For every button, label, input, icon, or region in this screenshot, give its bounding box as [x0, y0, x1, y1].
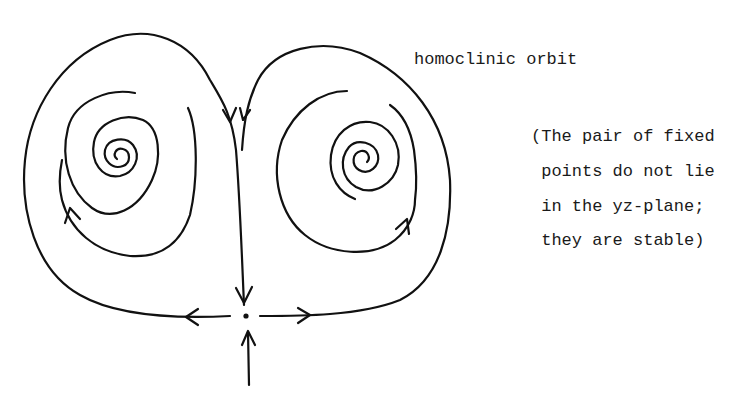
saddle-point [243, 313, 248, 318]
arrow-down-right-loop-icon [240, 108, 250, 120]
arrow-down-left-loop-icon [223, 108, 236, 122]
left-homoclinic-loop [24, 34, 244, 317]
note-line-4: they are stable) [531, 231, 704, 250]
stable-manifold-bottom [248, 332, 249, 385]
left-spiral-outer-arc [60, 108, 196, 256]
left-spiral [65, 92, 158, 214]
right-spiral [331, 122, 399, 199]
note-line-3: in the yz-plane; [531, 197, 704, 216]
note-line-2: points do not lie [531, 162, 715, 181]
right-homoclinic-loop [242, 46, 450, 316]
arrow-up-left-spiral-icon [65, 208, 80, 223]
homoclinic-orbit-label: homoclinic orbit [414, 50, 577, 69]
note-line-1: (The pair of fixed [531, 127, 715, 146]
